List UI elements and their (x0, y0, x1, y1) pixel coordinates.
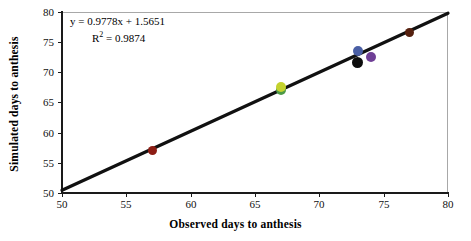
x-tick-label: 65 (240, 198, 270, 210)
r-squared-text: R2 = 0.9874 (70, 28, 165, 45)
x-axis-title: Observed days to anthesis (0, 218, 471, 230)
data-point-1 (148, 146, 157, 155)
y-axis-title: Simulated days to anthesis (8, 4, 20, 204)
x-tick-mark (191, 193, 192, 197)
x-tick-label: 70 (304, 198, 334, 210)
x-tick-mark (448, 193, 449, 197)
y-tick-mark (58, 72, 62, 73)
y-tick-mark (58, 42, 62, 43)
y-tick-label: 70 (28, 66, 54, 78)
y-tick-mark (58, 133, 62, 134)
x-tick-label: 75 (369, 198, 399, 210)
y-tick-mark (58, 12, 62, 13)
y-tick-label: 80 (28, 6, 54, 18)
scatter-chart-figure: 50 55 60 65 70 75 80 50 55 60 65 70 75 8… (0, 0, 471, 241)
x-tick-label: 80 (433, 198, 463, 210)
x-tick-label: 55 (111, 198, 141, 210)
regression-equation: y = 0.9778x + 1.5651 (70, 14, 165, 28)
x-tick-label: 60 (176, 198, 206, 210)
y-tick-mark (58, 163, 62, 164)
r-squared-exponent: 2 (99, 30, 103, 39)
y-tick-label: 60 (28, 127, 54, 139)
x-tick-mark (126, 193, 127, 197)
x-tick-mark (319, 193, 320, 197)
x-tick-mark (255, 193, 256, 197)
x-tick-mark (384, 193, 385, 197)
x-tick-mark (62, 193, 63, 197)
y-tick-mark (58, 102, 62, 103)
data-point-5 (352, 57, 363, 68)
y-tick-label: 75 (28, 36, 54, 48)
data-point-7 (405, 28, 414, 37)
data-point-2 (276, 82, 286, 92)
x-tick-label: 50 (47, 198, 77, 210)
y-tick-label: 65 (28, 96, 54, 108)
y-tick-mark (58, 193, 62, 194)
y-tick-label: 55 (28, 157, 54, 169)
regression-annotation: y = 0.9778x + 1.5651 R2 = 0.9874 (70, 14, 165, 45)
r-squared-value: = 0.9874 (106, 32, 145, 44)
y-tick-label: 50 (28, 187, 54, 199)
data-point-6 (366, 52, 376, 62)
